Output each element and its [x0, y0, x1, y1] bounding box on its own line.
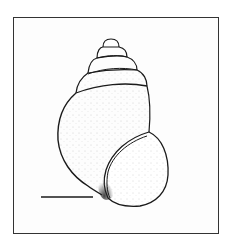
snail-shell-illustration — [0, 0, 232, 240]
